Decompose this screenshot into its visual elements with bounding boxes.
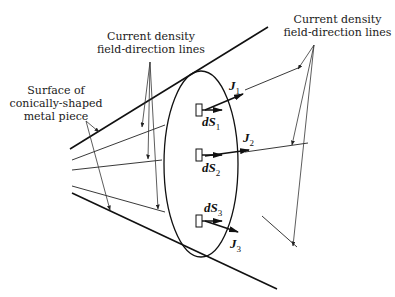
label-surface: Surface of conically-shaped metal piece: [6, 84, 106, 123]
leaders-surface-label: [86, 121, 110, 210]
label-ds2: dS2: [202, 160, 220, 178]
label-current-density-left: Current density field-direction lines: [76, 30, 226, 56]
label-j3: J3: [230, 236, 241, 254]
leaders-left-label: [142, 62, 158, 209]
label-line: field-direction lines: [76, 43, 226, 56]
cone-surface: [70, 27, 277, 289]
label-line: Current density: [76, 30, 226, 43]
label-ds3: dS3: [204, 200, 222, 218]
diagram-canvas: Current density field-direction lines Cu…: [0, 0, 395, 297]
label-ds1: dS1: [202, 114, 220, 132]
label-line: Current density: [280, 13, 395, 26]
label-line: metal piece: [6, 110, 106, 123]
label-j1: J1: [229, 78, 240, 96]
leaders-right-label: [292, 45, 314, 246]
field-lines-right: [245, 68, 308, 247]
cross-section-ellipse: [164, 71, 238, 257]
label-line: field-direction lines: [280, 26, 395, 39]
label-j2: J2: [243, 130, 254, 148]
label-current-density-right: Current density field-direction lines: [280, 13, 395, 39]
label-line: conically-shaped: [6, 97, 106, 110]
label-line: Surface of: [6, 84, 106, 97]
